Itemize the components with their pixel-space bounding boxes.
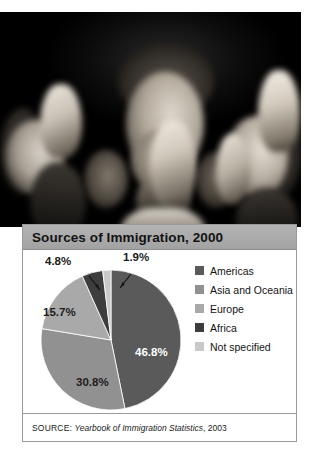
pie-slice-americas <box>111 270 181 409</box>
pie-chart-svg <box>27 254 193 410</box>
photo-vignette <box>0 12 301 227</box>
chart-title: Sources of Immigration, 2000 <box>32 230 223 245</box>
chart-title-bar: Sources of Immigration, 2000 <box>23 225 296 250</box>
source-publication-title: Yearbook of Immigration Statistics <box>75 423 204 433</box>
legend-label: Africa <box>210 322 237 334</box>
naturalization-ceremony-photo <box>0 12 301 227</box>
pie-label-europe: 15.7% <box>43 306 76 318</box>
legend-label: Americas <box>210 265 254 277</box>
pie-chart: 4.8% 1.9% 15.7% 30.8% 46.8% <box>27 254 193 410</box>
legend-label: Europe <box>210 303 244 315</box>
legend-item: Africa <box>195 319 295 336</box>
chart-legend: AmericasAsia and OceaniaEuropeAfricaNot … <box>195 262 295 357</box>
legend-swatch <box>195 304 204 313</box>
legend-swatch <box>195 285 204 294</box>
legend-swatch <box>195 323 204 332</box>
legend-item: Asia and Oceania <box>195 281 295 298</box>
source-year: , 2003 <box>203 423 227 433</box>
source-footer: SOURCE: Yearbook of Immigration Statisti… <box>23 413 296 441</box>
legend-swatch <box>195 266 204 275</box>
pie-label-americas: 46.8% <box>135 346 168 358</box>
source-prefix: SOURCE: <box>32 423 72 433</box>
legend-swatch <box>195 342 204 351</box>
legend-label: Asia and Oceania <box>210 284 293 296</box>
chart-panel: Sources of Immigration, 2000 4.8% 1.9% 1… <box>22 224 297 442</box>
pie-label-africa: 4.8% <box>45 255 71 267</box>
figure-container: Sources of Immigration, 2000 4.8% 1.9% 1… <box>0 0 313 451</box>
pie-slices <box>41 270 181 410</box>
pie-label-not-specified: 1.9% <box>123 251 149 263</box>
legend-item: Americas <box>195 262 295 279</box>
legend-item: Europe <box>195 300 295 317</box>
source-citation: SOURCE: Yearbook of Immigration Statisti… <box>32 423 227 433</box>
chart-body: 4.8% 1.9% 15.7% 30.8% 46.8% AmericasAsia… <box>23 250 296 414</box>
legend-label: Not specified <box>210 341 271 353</box>
legend-item: Not specified <box>195 338 295 355</box>
pie-label-asia-oceania: 30.8% <box>76 376 109 388</box>
